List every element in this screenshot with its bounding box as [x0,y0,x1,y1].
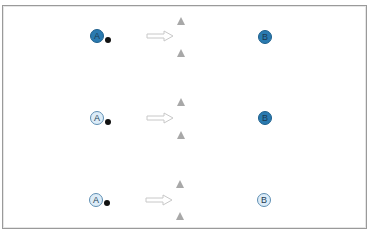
node-label: B [262,32,268,42]
node-label: A [94,31,100,41]
cone-icon [176,212,184,220]
node-a-row3: A [89,193,103,207]
ball-icon [104,200,110,206]
arrow-right-icon [145,194,173,206]
cone-icon [176,180,184,188]
node-b-row3: B [257,193,271,207]
node-a-row1: A [90,29,104,43]
node-label: B [261,195,267,205]
ball-icon [105,119,111,125]
cone-icon [177,131,185,139]
node-a-row2: A [90,111,104,125]
cone-icon [177,49,185,57]
node-b-row2: B [258,111,272,125]
arrow-right-icon [146,30,174,42]
node-label: A [93,195,99,205]
node-label: A [94,113,100,123]
node-label: B [262,113,268,123]
ball-icon [105,37,111,43]
arrow-right-icon [146,112,174,124]
cone-icon [177,17,185,25]
diagram-frame [2,5,367,229]
node-b-row1: B [258,30,272,44]
cone-icon [177,98,185,106]
